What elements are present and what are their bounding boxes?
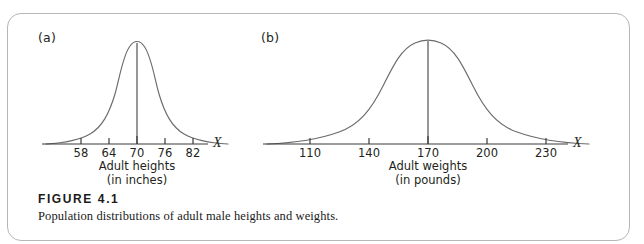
figure-container: (a) 58 64 70 76 82 X Adult heights (in i…: [0, 0, 644, 244]
panel-a-plot: [30, 22, 260, 154]
figure-caption-text: Population distributions of adult male h…: [38, 209, 598, 224]
panel-b-caption-line2: (in pounds): [389, 174, 467, 188]
figure-caption-block: FIGURE 4.1 Population distributions of a…: [38, 192, 598, 224]
figure-number: FIGURE 4.1: [38, 192, 598, 206]
x-axis-symbol-a: X: [213, 135, 222, 151]
panel-b-caption-line1: Adult weights: [389, 160, 467, 174]
panel-a-caption-line1: Adult heights: [99, 160, 175, 174]
panel-b-plot: [255, 22, 595, 154]
x-axis-symbol-b: X: [573, 135, 582, 151]
panel-b-axis-caption: Adult weights (in pounds): [389, 160, 467, 187]
panel-a-caption-line2: (in inches): [99, 174, 175, 188]
panel-a-axis-caption: Adult heights (in inches): [99, 160, 175, 187]
